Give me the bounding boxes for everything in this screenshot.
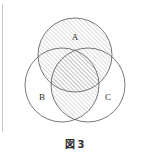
figure-caption-label: 図	[65, 139, 76, 150]
figure-page: A B C 図3	[0, 0, 150, 161]
set-label-b: B	[39, 92, 45, 102]
set-label-c: C	[105, 92, 111, 102]
set-label-a: A	[72, 32, 79, 42]
figure-caption-number: 3	[78, 139, 85, 150]
venn-diagram: A B C	[13, 9, 136, 135]
figure-caption: 図3	[0, 138, 150, 151]
page-left-edge-rule	[2, 4, 3, 132]
